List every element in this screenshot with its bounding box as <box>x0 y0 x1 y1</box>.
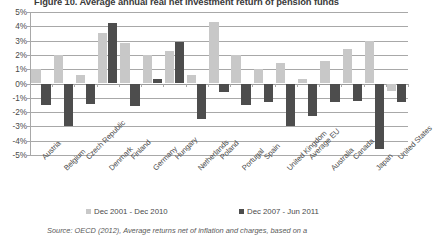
x-tick-mark <box>319 84 320 87</box>
x-tick-mark <box>341 84 342 87</box>
bar <box>187 75 196 84</box>
y-axis-tick-label: -2% <box>12 108 27 117</box>
x-tick-mark <box>52 84 53 87</box>
plot-area: 5%4%3%2%1%0%-1%-2%-3%-4%-5% <box>30 12 408 155</box>
x-tick-mark <box>186 84 187 87</box>
bar-group <box>163 12 185 155</box>
x-tick-mark <box>74 84 75 87</box>
source-note: Source: OECD (2012), Average returns net… <box>47 226 407 237</box>
bar <box>254 69 263 83</box>
bar <box>375 84 384 150</box>
y-axis-tick-label: -3% <box>12 122 27 131</box>
x-tick-mark <box>297 84 298 87</box>
chart-title: Figure 10. Average annual real net inves… <box>34 0 409 9</box>
y-axis-tick-label: 4% <box>15 22 27 31</box>
bar <box>41 84 50 105</box>
bar-group <box>252 12 274 155</box>
bar-group <box>52 12 74 155</box>
y-axis-tick-label: -1% <box>12 93 27 102</box>
bar-group <box>30 12 52 155</box>
bar-group <box>119 12 141 155</box>
legend-label-series-2: Dec 2007 - Jun 2011 <box>247 207 319 216</box>
bar <box>197 84 206 120</box>
bar <box>86 84 95 104</box>
y-axis-tick-label: 2% <box>15 50 27 59</box>
y-axis-tick-label: -5% <box>12 151 27 160</box>
y-axis-tick-label: 3% <box>15 36 27 45</box>
bar <box>397 84 406 103</box>
x-tick-mark <box>364 84 365 87</box>
bar <box>241 84 250 105</box>
legend-label-series-1: Dec 2001 - Dec 2010 <box>94 207 168 216</box>
bar <box>330 84 339 103</box>
bar <box>276 63 285 83</box>
bar <box>286 84 295 127</box>
bar <box>64 84 73 127</box>
legend-item-series-1: Dec 2001 - Dec 2010 <box>86 207 168 216</box>
bar-group <box>230 12 252 155</box>
y-axis-tick-label: 1% <box>15 65 27 74</box>
x-tick-mark <box>163 84 164 87</box>
bar <box>130 84 139 107</box>
bar-group <box>141 12 163 155</box>
bar <box>120 43 129 83</box>
bar <box>219 84 228 93</box>
bar <box>320 61 329 84</box>
bar-group <box>186 12 208 155</box>
x-tick-mark <box>230 84 231 87</box>
x-tick-mark <box>141 84 142 87</box>
bar <box>165 51 174 84</box>
x-tick-mark <box>252 84 253 87</box>
bar <box>264 84 273 103</box>
chart-legend: Dec 2001 - Dec 2010 Dec 2007 - Jun 2011 <box>0 207 412 219</box>
bar <box>298 79 307 83</box>
bar-group <box>364 12 386 155</box>
x-tick-mark <box>386 84 387 87</box>
bar <box>209 22 218 83</box>
bar <box>175 42 184 83</box>
bar <box>98 33 107 83</box>
x-tick-mark <box>97 84 98 87</box>
legend-item-series-2: Dec 2007 - Jun 2011 <box>239 207 319 216</box>
bar <box>353 84 362 101</box>
legend-swatch-series-1 <box>86 209 91 214</box>
bar <box>108 23 117 83</box>
bar <box>308 84 317 117</box>
bar-group <box>275 12 297 155</box>
bar <box>387 84 396 91</box>
x-tick-mark <box>119 84 120 87</box>
x-tick-mark <box>408 84 409 87</box>
x-axis-tick-label: Japan <box>374 152 395 173</box>
x-tick-mark <box>275 84 276 87</box>
bar-group <box>386 12 408 155</box>
y-axis-tick-label: -4% <box>12 136 27 145</box>
bar <box>231 55 240 84</box>
bar-group <box>341 12 363 155</box>
bar <box>76 75 85 84</box>
bar <box>54 55 63 84</box>
x-axis-labels: AustriaBelgiumCzech RepublicDenmarkFinla… <box>30 155 408 207</box>
bar <box>31 69 40 83</box>
bar-group <box>74 12 96 155</box>
x-tick-mark <box>30 84 31 87</box>
bars-layer <box>30 12 408 155</box>
y-axis-tick-label: 5% <box>15 8 27 17</box>
y-axis-tick-label: 0% <box>15 79 27 88</box>
x-tick-mark <box>208 84 209 87</box>
bar-group <box>208 12 230 155</box>
bar <box>365 41 374 84</box>
bar <box>343 49 352 83</box>
legend-swatch-series-2 <box>239 209 244 214</box>
bar <box>153 79 162 83</box>
bar <box>143 55 152 84</box>
